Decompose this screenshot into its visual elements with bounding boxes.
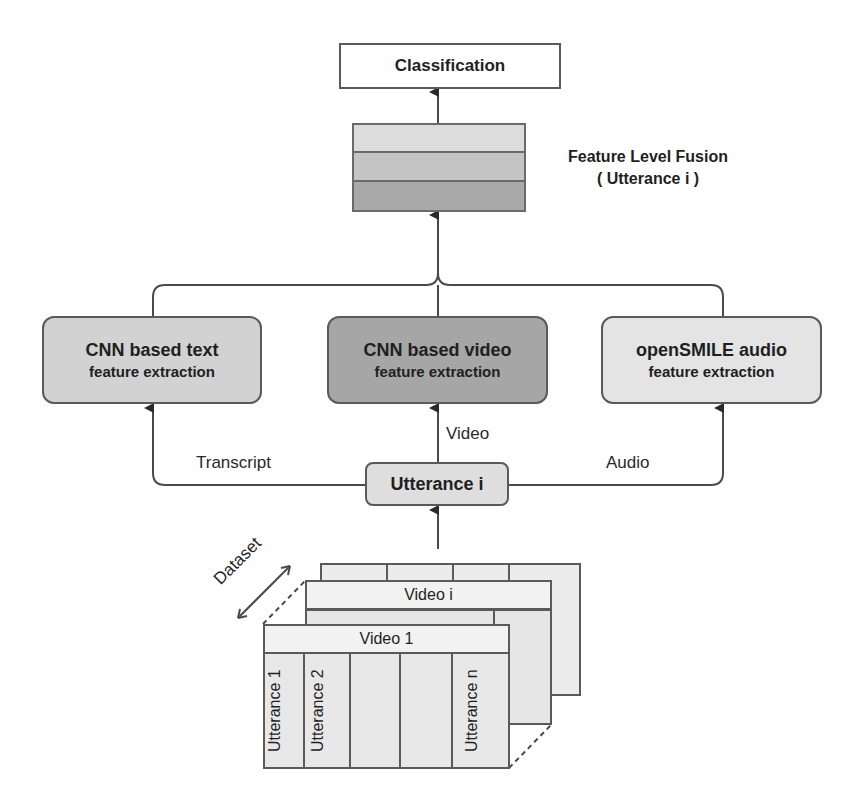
video-extractor-title: CNN based video — [363, 338, 511, 362]
edge-label-transcript: Transcript — [196, 453, 271, 473]
audio-feature-extraction-box: openSMILE audio feature extraction — [601, 316, 822, 404]
video-i-title: Video i — [307, 582, 550, 610]
audio-extractor-title: openSMILE audio — [636, 338, 787, 362]
feature-fusion-stack — [352, 123, 526, 212]
dataset-card-video-1: Video 1 Utterance 1 Utterance 2 Utteranc… — [263, 624, 510, 769]
utterance-column-label: Utterance 2 — [309, 669, 327, 752]
utterance-i-box: Utterance i — [365, 462, 509, 506]
fusion-band-audio — [354, 153, 524, 181]
utterance-column — [401, 654, 453, 767]
edge-label-audio: Audio — [606, 453, 649, 473]
fusion-label-title: Feature Level Fusion — [548, 146, 748, 168]
utterance-column: Utterance n — [453, 654, 508, 767]
text-extractor-subtitle: feature extraction — [89, 362, 215, 382]
audio-extractor-subtitle: feature extraction — [649, 362, 775, 382]
video-feature-extraction-box: CNN based video feature extraction — [327, 316, 548, 404]
utterance-columns: Utterance 1 Utterance 2 Utterance n — [265, 654, 508, 767]
edge-label-video: Video — [446, 424, 489, 444]
utterance-i-label: Utterance i — [390, 474, 483, 495]
classification-box: Classification — [339, 43, 561, 89]
utterance-column-label: Utterance n — [463, 669, 481, 752]
video-1-title: Video 1 — [265, 626, 508, 654]
fusion-band-text — [354, 125, 524, 153]
fusion-label: Feature Level Fusion ( Utterance i ) — [548, 146, 748, 190]
text-extractor-title: CNN based text — [85, 338, 218, 362]
utterance-column-label: Utterance 1 — [266, 669, 284, 752]
fusion-band-video — [354, 182, 524, 210]
classification-label: Classification — [395, 56, 506, 76]
text-feature-extraction-box: CNN based text feature extraction — [42, 316, 262, 404]
utterance-column: Utterance 1 — [265, 654, 305, 767]
video-extractor-subtitle: feature extraction — [375, 362, 501, 382]
fusion-label-subtitle: ( Utterance i ) — [548, 168, 748, 190]
utterance-column: Utterance 2 — [305, 654, 351, 767]
utterance-column — [351, 654, 401, 767]
